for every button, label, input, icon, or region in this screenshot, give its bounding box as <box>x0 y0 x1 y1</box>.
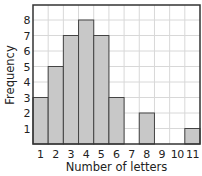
bar-8 <box>139 113 154 144</box>
bar-4 <box>79 20 94 144</box>
x-tick-label: 2 <box>52 148 59 161</box>
bar-6 <box>109 98 124 145</box>
x-tick-label: 1 <box>37 148 44 161</box>
bar-3 <box>63 36 78 145</box>
histogram-chart: 12345678 1234567891011 Number of letters… <box>0 0 202 176</box>
y-tick-label: 3 <box>24 92 31 105</box>
y-tick-label: 1 <box>24 123 31 136</box>
y-tick-label: 7 <box>24 30 31 43</box>
x-tick-label: 11 <box>186 148 199 161</box>
x-tick-label: 10 <box>171 148 184 161</box>
bar-1 <box>33 98 48 145</box>
y-tick-label: 8 <box>24 14 31 27</box>
y-axis-label: Frequency <box>3 45 17 105</box>
bar-5 <box>94 36 109 145</box>
y-tick-label: 2 <box>24 107 31 120</box>
y-tick-label: 5 <box>24 61 31 74</box>
bar-2 <box>48 67 63 145</box>
x-axis-label: Number of letters <box>66 160 168 174</box>
bar-11 <box>185 129 200 145</box>
y-tick-label: 6 <box>24 45 31 58</box>
y-tick-label: 4 <box>24 76 31 89</box>
y-axis-ticks: 12345678 <box>24 14 31 136</box>
